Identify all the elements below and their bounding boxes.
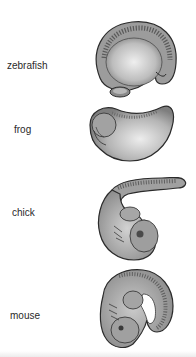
chick-embryo-illustration xyxy=(92,170,188,262)
label-mouse: mouse xyxy=(10,310,40,322)
frog-embryo-illustration xyxy=(86,103,176,165)
label-frog: frog xyxy=(14,124,31,136)
bottom-edge xyxy=(0,351,196,357)
label-chick: chick xyxy=(12,207,35,219)
mouse-embryo-illustration xyxy=(95,266,175,350)
label-zebrafish: zebrafish xyxy=(7,60,48,72)
zebrafish-embryo-illustration xyxy=(90,18,182,100)
